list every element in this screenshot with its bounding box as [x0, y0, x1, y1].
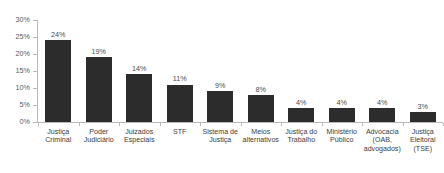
bar[interactable]	[410, 112, 436, 122]
bar[interactable]	[248, 95, 274, 122]
y-tick-label: 5%	[20, 101, 30, 108]
bar-group: 8%	[241, 20, 282, 122]
bar[interactable]	[86, 57, 112, 122]
bar[interactable]	[45, 40, 71, 122]
y-tick-label: 10%	[16, 84, 30, 91]
x-tick-mark	[79, 123, 80, 126]
x-tick-mark	[119, 123, 120, 126]
bar-value-label: 4%	[296, 99, 306, 106]
x-category-label: Justiça Criminal	[38, 128, 79, 145]
bar-value-label: 4%	[377, 99, 387, 106]
y-tick-label: 25%	[16, 33, 30, 40]
x-tick-mark	[403, 123, 404, 126]
bar-value-label: 8%	[256, 86, 266, 93]
bar-chart: 30%25%20%15%10%5%0% 24%19%14%11%9%8%4%4%…	[0, 0, 444, 173]
bar-value-label: 14%	[132, 65, 146, 72]
y-tick-label: 15%	[16, 67, 30, 74]
bar-group: 3%	[403, 20, 444, 122]
bar-group: 4%	[362, 20, 403, 122]
bar-group: 4%	[281, 20, 322, 122]
bar[interactable]	[288, 108, 314, 122]
x-tick-mark	[322, 123, 323, 126]
bar-value-label: 4%	[337, 99, 347, 106]
x-tick-mark	[200, 123, 201, 126]
bar[interactable]	[329, 108, 355, 122]
bar-group: 11%	[160, 20, 201, 122]
x-category-label: Ministério Público	[322, 128, 363, 145]
x-category-label: Meios alternativos	[241, 128, 282, 145]
bar-group: 4%	[322, 20, 363, 122]
bar[interactable]	[167, 85, 193, 122]
bar[interactable]	[126, 74, 152, 122]
bar-value-label: 3%	[418, 103, 428, 110]
bar-group: 14%	[119, 20, 160, 122]
x-category-label: STF	[160, 128, 201, 136]
x-category-label: Juizados Especiais	[119, 128, 160, 145]
bar-value-label: 9%	[215, 82, 225, 89]
bar[interactable]	[369, 108, 395, 122]
bar-value-label: 11%	[173, 75, 187, 82]
bar-group: 9%	[200, 20, 241, 122]
x-tick-mark	[362, 123, 363, 126]
bar-value-label: 24%	[51, 31, 65, 38]
x-category-label: Justiça do Trabalho	[281, 128, 322, 145]
x-category-label: Advocacia (OAB, advogados)	[362, 128, 403, 153]
bar[interactable]	[207, 91, 233, 122]
plot-area: 24%19%14%11%9%8%4%4%4%3%	[38, 20, 443, 122]
x-category-label: Justiça Eleitoral (TSE)	[403, 128, 444, 153]
bar-group: 24%	[38, 20, 79, 122]
x-tick-mark	[160, 123, 161, 126]
x-tick-mark	[281, 123, 282, 126]
bar-group: 19%	[79, 20, 120, 122]
x-tick-mark	[241, 123, 242, 126]
bar-value-label: 19%	[92, 48, 106, 55]
x-category-label: Poder Judiciário	[79, 128, 120, 145]
x-axis: Justiça CriminalPoder JudiciárioJuizados…	[38, 123, 443, 173]
y-tick-label: 0%	[20, 118, 30, 125]
y-axis: 30%25%20%15%10%5%0%	[0, 0, 37, 173]
x-tick-mark	[38, 123, 39, 126]
x-category-label: Sistema de Justiça	[200, 128, 241, 145]
y-tick-label: 30%	[16, 16, 30, 23]
y-tick-label: 20%	[16, 50, 30, 57]
